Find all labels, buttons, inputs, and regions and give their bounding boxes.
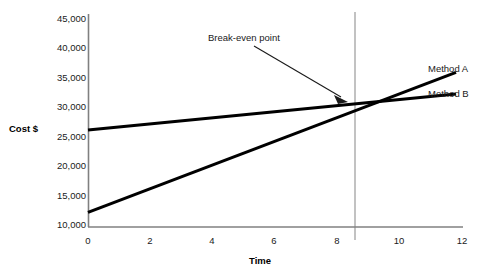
y-tick-label: 35,000: [38, 73, 86, 83]
y-tick-label: 40,000: [38, 43, 86, 53]
y-tick-label: 25,000: [38, 132, 86, 142]
y-tick-label: 45,000: [38, 14, 86, 24]
series-line-method-a: [88, 72, 456, 212]
y-axis-title: Cost $: [9, 124, 38, 134]
x-tick-label: 10: [385, 236, 413, 246]
y-tick-label: 30,000: [38, 102, 86, 112]
x-tick-label: 12: [448, 236, 476, 246]
x-axis-title: Time: [249, 256, 271, 266]
series-line-method-b: [88, 94, 456, 130]
series-label-method-a: Method A: [428, 64, 468, 74]
y-tick-label: 10,000: [38, 220, 86, 230]
y-tick-label: 20,000: [38, 161, 86, 171]
x-tick-label: 6: [260, 236, 288, 246]
x-tick-label: 0: [74, 236, 102, 246]
annotation-arrow-head: [334, 95, 348, 104]
x-tick-label: 2: [136, 236, 164, 246]
x-tick-label: 8: [323, 236, 351, 246]
break-even-annotation-label: Break-even point: [208, 33, 280, 43]
series-label-method-b: Method B: [428, 89, 469, 99]
annotation-arrow-shaft: [254, 46, 341, 97]
y-tick-label: 15,000: [38, 191, 86, 201]
x-tick-label: 4: [198, 236, 226, 246]
break-even-chart: 45,000 40,000 35,000 30,000 25,000 20,00…: [0, 0, 488, 277]
